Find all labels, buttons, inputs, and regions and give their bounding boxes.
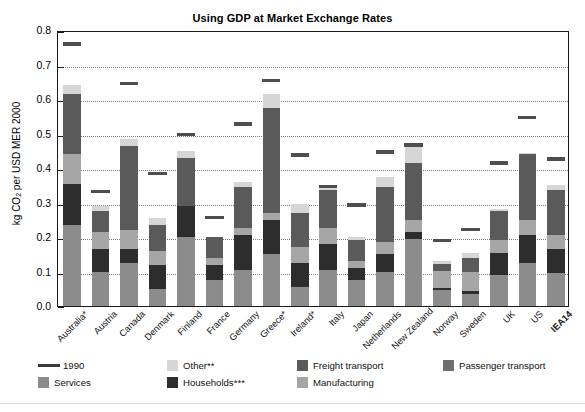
bar-segment-freighttransport (547, 190, 565, 235)
bar-segment-households (149, 265, 167, 289)
bar-segment-freighttransport (462, 258, 480, 272)
bar-segment-freighttransport (206, 237, 224, 258)
bar-france (206, 237, 224, 306)
gridline (58, 101, 568, 102)
marker-1990 (404, 143, 422, 146)
legend-label: Freight transport (313, 360, 383, 371)
bar-norway (433, 261, 451, 306)
bar-segment-manufacturing (206, 258, 224, 265)
chart-title: Using GDP at Market Exchange Rates (0, 12, 585, 24)
bar-segment-manufacturing (519, 220, 537, 236)
legend-color-swatch (443, 360, 454, 371)
bar-segment-manufacturing (547, 235, 565, 249)
y-axis-tick (58, 307, 64, 308)
y-axis-tick-label: 0.4 (7, 162, 51, 174)
bar-germany (234, 182, 252, 306)
marker-1990 (177, 133, 195, 136)
legend-color-swatch (38, 377, 49, 388)
bar-segment-manufacturing (376, 242, 394, 254)
legend-label: 1990 (63, 360, 84, 371)
y-axis-tick-label: 0.3 (7, 197, 51, 209)
bar-segment-manufacturing (433, 271, 451, 288)
legend-item-passengertransport: Passenger transport (443, 360, 545, 371)
bar-segment-freighttransport (319, 190, 337, 228)
bar-segment-services (433, 290, 451, 306)
bar-segment-freighttransport (490, 211, 508, 240)
bar-segment-manufacturing (291, 247, 309, 263)
legend-item-freighttransport: Freight transport (297, 360, 383, 371)
bar-segment-services (376, 272, 394, 307)
bar-segment-other (149, 218, 167, 225)
bar-segment-freighttransport (177, 158, 195, 206)
legend-item-1990: 1990 (38, 360, 84, 371)
bar-segment-households (291, 263, 309, 287)
marker-1990 (547, 157, 565, 160)
bar-finland (177, 151, 195, 306)
bar-segment-other (120, 139, 138, 146)
bar-segment-services (206, 280, 224, 306)
legend-color-swatch (167, 360, 178, 371)
legend-label: Passenger transport (459, 360, 545, 371)
bar-segment-households (319, 244, 337, 270)
bar-segment-services (263, 254, 281, 306)
marker-1990 (91, 190, 109, 193)
bar-segment-services (291, 287, 309, 306)
legend-item-manufacturing: Manufacturing (297, 377, 374, 388)
gridline (58, 136, 568, 137)
marker-1990 (262, 79, 280, 82)
bar-segment-manufacturing (263, 213, 281, 220)
bar-australia (63, 85, 81, 306)
legend-label: Services (54, 377, 91, 388)
marker-1990 (490, 161, 508, 164)
bar-segment-other (263, 94, 281, 108)
bar-japan (348, 237, 366, 306)
marker-1990 (148, 172, 166, 175)
bar-segment-services (149, 289, 167, 306)
legend: 1990ServicesOther**Households***Freight … (0, 360, 585, 402)
bar-segment-households (234, 235, 252, 270)
bar-newzealand (405, 144, 423, 306)
bar-segment-households (206, 265, 224, 281)
bar-iea14 (547, 185, 565, 306)
bar-segment-services (405, 239, 423, 306)
marker-1990 (319, 185, 337, 188)
bar-segment-freighttransport (376, 187, 394, 242)
bar-segment-freighttransport (348, 240, 366, 261)
y-axis-tick-label: 0.0 (7, 300, 51, 312)
legend-item-services: Services (38, 377, 91, 388)
bar-segment-freighttransport (263, 108, 281, 213)
y-axis-tick-label: 0.1 (7, 266, 51, 278)
bar-segment-households (405, 232, 423, 239)
bar-segment-households (519, 235, 537, 263)
marker-1990 (63, 42, 81, 45)
gridline (58, 67, 568, 68)
bar-segment-other (376, 177, 394, 187)
marker-1990 (347, 203, 365, 206)
bar-segment-services (92, 272, 110, 307)
bar-segment-other (63, 85, 81, 94)
bar-segment-manufacturing (348, 261, 366, 268)
marker-1990 (376, 150, 394, 153)
bar-segment-households (177, 206, 195, 237)
bar-segment-freighttransport (291, 213, 309, 248)
bar-segment-households (547, 249, 565, 273)
marker-1990 (234, 122, 252, 125)
marker-1990 (291, 153, 309, 156)
y-axis-tick (58, 67, 64, 68)
bar-sweden (462, 253, 480, 306)
marker-1990 (205, 216, 223, 219)
bar-segment-services (234, 270, 252, 306)
bar-netherlands (376, 177, 394, 306)
bottom-divider (0, 403, 585, 404)
marker-1990 (120, 82, 138, 85)
bar-segment-households (348, 268, 366, 280)
bar-segment-other (177, 151, 195, 158)
bar-segment-freighttransport (234, 187, 252, 228)
bar-ireland (291, 204, 309, 306)
y-axis-tick-label: 0.5 (7, 128, 51, 140)
bar-segment-freighttransport (433, 264, 451, 271)
bar-canada (120, 139, 138, 306)
bar-segment-services (63, 225, 81, 306)
bar-segment-manufacturing (120, 230, 138, 249)
bar-segment-manufacturing (149, 251, 167, 265)
